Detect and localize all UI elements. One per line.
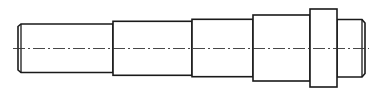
step-4-section: [253, 15, 310, 81]
collar-section: [310, 9, 337, 87]
step-3-section: [192, 19, 253, 76]
shaft-drawing: [0, 0, 377, 98]
